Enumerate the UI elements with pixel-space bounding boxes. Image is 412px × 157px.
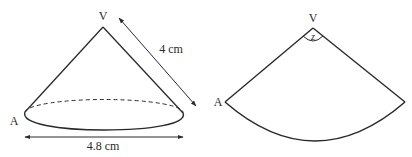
sector-left-radius — [225, 28, 313, 102]
sector-edge-point-label: A — [214, 95, 223, 109]
sector-net-figure: V A z — [214, 11, 405, 141]
cone-base-point-label: A — [10, 114, 19, 128]
diameter-label: 4.8 cm — [87, 139, 120, 153]
cone-apex-label: V — [99, 9, 108, 23]
slant-dimension-arrow — [119, 18, 196, 106]
sector-arc — [225, 102, 405, 141]
cone-diagram: V A 4 cm 4.8 cm V A z — [0, 0, 412, 157]
angle-z-label: z — [310, 31, 315, 42]
cone-left-slant — [25, 27, 103, 112]
cone-base-hidden-edge — [25, 99, 183, 113]
slant-height-label: 4 cm — [159, 42, 183, 56]
sector-apex-label: V — [309, 11, 318, 25]
cone-base-visible-edge — [25, 112, 184, 130]
cone-figure: V A 4 cm 4.8 cm — [10, 9, 196, 153]
sector-right-radius — [313, 28, 405, 102]
